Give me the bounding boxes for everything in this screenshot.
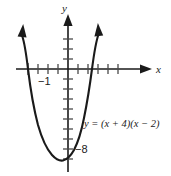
labels-group: x y −1 −8 y = (x + 4)(x − 2) — [38, 2, 161, 155]
y-axis-label: y — [61, 2, 67, 14]
graph-canvas: x y −1 −8 y = (x + 4)(x − 2) — [0, 0, 171, 176]
x-axis-arrowhead — [140, 64, 152, 73]
parabola-figure: x y −1 −8 y = (x + 4)(x − 2) — [0, 0, 171, 176]
y-tick-label-minus-8: −8 — [75, 143, 88, 155]
parabola-right-arrowhead — [94, 23, 103, 37]
parabola-left-arrowhead — [18, 24, 27, 38]
parabola-curve-group — [18, 23, 104, 161]
x-tick-label-minus-1: −1 — [38, 75, 51, 87]
equation-label: y = (x + 4)(x − 2) — [83, 118, 160, 130]
y-axis-arrowhead — [63, 14, 72, 26]
x-axis-label: x — [155, 63, 161, 75]
